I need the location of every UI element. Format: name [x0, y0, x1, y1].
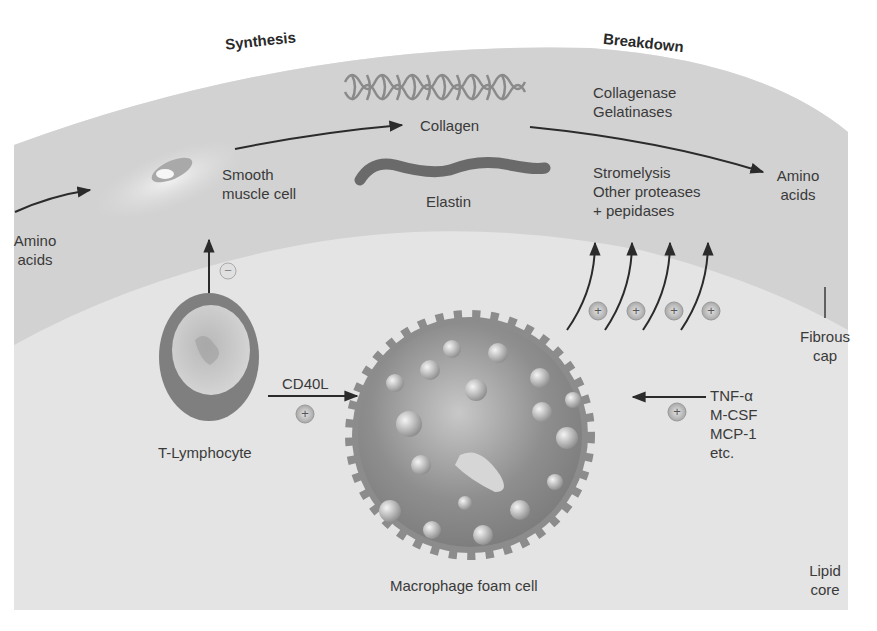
stimulate-sign-3: +	[666, 301, 682, 320]
label-amino-acids-left: Aminoacids	[12, 231, 58, 269]
label-collagen: Collagen	[420, 116, 479, 135]
label-cytokines: TNF-αM-CSFMCP-1etc.	[710, 386, 758, 462]
label-lipid-core: Lipidcore	[800, 561, 850, 599]
label-elastin: Elastin	[426, 192, 471, 211]
label-cd40l: CD40L	[282, 374, 329, 393]
stimulate-sign-cytokines: +	[669, 402, 685, 421]
stimulate-sign-cd40l: +	[297, 404, 313, 423]
t-lymphocyte-cell	[159, 293, 259, 421]
label-fibrous-cap: Fibrouscap	[795, 327, 855, 365]
stimulate-sign-1: +	[590, 301, 606, 320]
inhibit-sign: −	[221, 261, 235, 280]
label-macrophage-foam-cell: Macrophage foam cell	[390, 576, 538, 595]
label-proteases: StromelysisOther proteases+ pepidases	[593, 163, 701, 220]
label-amino-acids-right: Aminoacids	[772, 166, 824, 204]
atherosclerotic-plaque-diagram: − + + + + + + Synthesis Breakdown Aminoa…	[0, 0, 877, 631]
label-t-lymphocyte: T-Lymphocyte	[158, 443, 252, 462]
label-smooth-muscle-cell: Smoothmuscle cell	[222, 165, 296, 203]
macrophage-foam-cell	[352, 317, 588, 553]
stimulate-sign-2: +	[628, 301, 644, 320]
diagram-canvas	[0, 0, 877, 631]
label-collagenase-gelatinases: CollagenaseGelatinases	[593, 83, 676, 121]
stimulate-sign-4: +	[703, 301, 719, 320]
